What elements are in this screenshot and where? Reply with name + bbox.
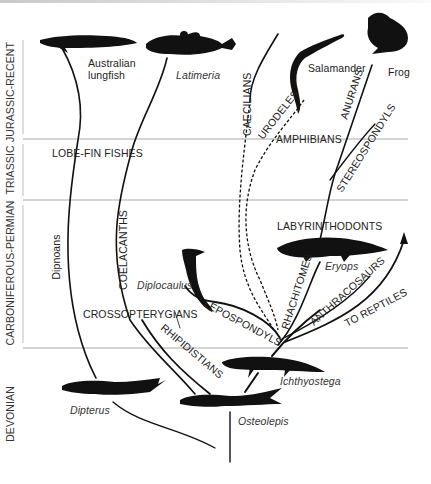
label-eryops: Eryops	[325, 260, 359, 272]
label-latimeria: Latimeria	[176, 69, 220, 81]
label-anurans: ANURANS	[337, 67, 364, 120]
label-rhipidistians: RHIPIDISTIANS	[159, 321, 226, 380]
label-amphibians: AMPHIBIANS	[276, 133, 342, 145]
label-osteolepis: Osteolepis	[238, 415, 289, 427]
period-carboniferous-permian: CARBONIFEROUS-PERMIAN	[4, 200, 16, 345]
frog-silhouette-icon	[367, 13, 408, 54]
label-caecilians: CAECILIANS	[241, 73, 253, 136]
dipterus-to-root	[113, 402, 215, 448]
dipterus-silhouette-icon	[62, 378, 166, 395]
label-lungfish: lungfish	[88, 69, 125, 81]
label-coelacanths: COELACANTHS	[117, 210, 129, 290]
ichthyostega-link	[245, 373, 258, 392]
caecilian-upper	[250, 34, 278, 100]
label-diplocaulus: Diplocaulus	[137, 279, 193, 291]
label-salamander: Salamander	[308, 62, 366, 74]
salamander-silhouette-icon	[290, 34, 344, 114]
period-jurassic-recent: JURASSIC-RECENT	[4, 41, 16, 142]
period-devonian: DEVONIAN	[4, 386, 16, 442]
dipnoan-lineage	[62, 48, 96, 378]
label-dipterus: Dipterus	[70, 404, 111, 416]
latimeria-silhouette-icon	[146, 32, 236, 55]
label-labyrinthodonts: LABYRINTHODONTS	[277, 220, 382, 232]
osteolepis-silhouette-icon	[180, 388, 282, 407]
label-crossopterygians: CROSSOPTERYGIANS	[83, 308, 198, 320]
phylogeny-diagram: JURASSIC-RECENT TRIASSIC CARBONIFEROUS-P…	[0, 0, 431, 484]
period-triassic: TRIASSIC	[4, 145, 16, 195]
latimeria-dorsal	[180, 31, 188, 39]
lungfish-silhouette-icon	[40, 35, 137, 48]
eryops-silhouette-icon	[277, 237, 388, 257]
reptile-arrow-icon	[400, 232, 408, 244]
label-ichthyostega: Ichthyostega	[280, 375, 341, 387]
label-lepospondyls: LEPOSPONDYLS	[202, 297, 284, 348]
label-frog: Frog	[388, 66, 410, 78]
label-dipnoans: Dipnoans	[50, 234, 62, 279]
label-lobe-fin-fishes: LOBE-FIN FISHES	[52, 147, 143, 159]
label-australian: Australian	[88, 57, 136, 69]
ichthyostega-silhouette-icon	[222, 357, 325, 372]
